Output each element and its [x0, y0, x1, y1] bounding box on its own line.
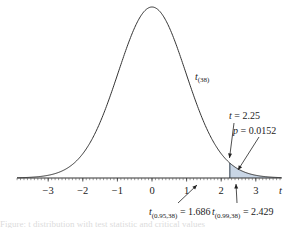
x-tick-label: 0 [149, 185, 154, 196]
x-tick-label: −3 [43, 185, 54, 196]
crit-99-label: t(0.99,38) = 2.429 [212, 206, 274, 220]
figure-caption: Figure: t distribution with test statist… [0, 219, 299, 228]
t-distribution-chart: −3−2−10123 t = 2.25p = 0.0152t(0.95,38) … [0, 0, 299, 228]
x-tick-label: −2 [77, 185, 88, 196]
p-value-label: p = 0.0152 [232, 125, 276, 136]
t-distribution-curve [17, 7, 281, 178]
curve-label: t(38) [195, 71, 210, 84]
x-tick-label: 3 [253, 185, 258, 196]
t-stat-arrow-head [228, 153, 232, 158]
x-axis-label: t [279, 185, 283, 196]
p-value-arrow-head [238, 165, 242, 170]
crit-95-label: t(0.95,38) = 1.686 [149, 206, 211, 220]
p-value-arrow-line [238, 137, 259, 170]
x-tick-label: −1 [112, 185, 123, 196]
crit-99-arrow-head [234, 184, 238, 189]
t-stat-label: t = 2.25 [229, 110, 260, 121]
x-tick-label: 2 [219, 185, 224, 196]
